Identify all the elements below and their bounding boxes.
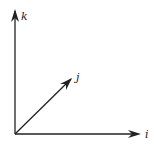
i-label: i <box>145 128 149 141</box>
j-label: j <box>73 71 80 84</box>
j-vector-line <box>15 79 71 134</box>
vector-axes-diagram: k i j <box>0 0 154 144</box>
axes-svg: k i j <box>0 0 154 144</box>
k-label: k <box>21 10 28 23</box>
